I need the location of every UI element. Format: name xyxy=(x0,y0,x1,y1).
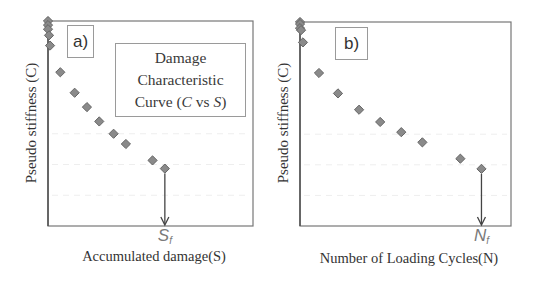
panel-label-b: b) xyxy=(335,27,368,60)
data-point-diamond xyxy=(418,138,427,147)
data-point-diamond xyxy=(314,68,323,77)
scatter-plot-b xyxy=(0,0,540,287)
x-axis-label-b: Number of Loading Cycles(N) xyxy=(320,250,498,267)
y-axis-label-b: Pseudo stiffness (C) xyxy=(275,63,292,184)
failure-point-label-nf: Nf xyxy=(474,226,489,246)
data-point-diamond xyxy=(354,105,363,114)
data-point-diamond xyxy=(456,154,465,163)
chart-panel-b: Pseudo stiffness (C) b) Nf Number of Loa… xyxy=(0,0,540,287)
failure-subscript: f xyxy=(486,235,489,246)
failure-symbol: N xyxy=(474,226,486,245)
data-point-diamond xyxy=(333,89,342,98)
data-point-diamond xyxy=(477,164,486,173)
data-point-diamond xyxy=(397,128,406,137)
data-point-diamond xyxy=(376,117,385,126)
